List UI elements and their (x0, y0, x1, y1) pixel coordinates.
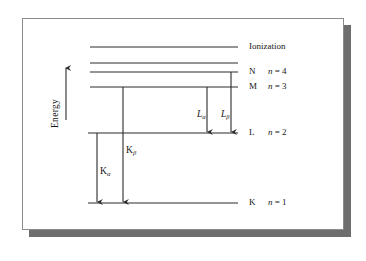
transition-subscript-k-alpha: α (107, 170, 110, 177)
quantum-value-K: = 1 (273, 197, 287, 207)
level-quantum-K: n = 1 (268, 198, 287, 207)
transition-label-k-alpha: Kα (100, 167, 110, 177)
transition-label-k-beta: Kβ (126, 146, 136, 156)
quantum-value-N: = 4 (273, 66, 287, 76)
energy-axis-label: Energy (50, 99, 60, 128)
level-quantum-N: n = 4 (268, 67, 287, 76)
transition-arrows (97, 72, 231, 202)
level-quantum-M: n = 3 (268, 82, 287, 91)
level-quantum-L: n = 2 (268, 128, 287, 137)
level-label-shell-K: K (249, 198, 256, 207)
transition-label-l-alpha: Lα (197, 110, 206, 120)
transition-label-l-beta: Lβ (221, 110, 230, 120)
level-label-ionization: Ionization (249, 42, 286, 51)
energy-level-lines (88, 47, 238, 203)
quantum-value-L: = 2 (273, 127, 287, 137)
diagram-canvas (0, 0, 366, 261)
transition-base-k-alpha: K (100, 166, 107, 176)
transition-subscript-l-alpha: α (202, 113, 205, 120)
transition-base-k-beta: K (126, 145, 133, 155)
quantum-value-M: = 3 (273, 81, 287, 91)
energy-level-diagram-figure: Energy Ionization N n = 4 M n = 3 L n = … (0, 0, 366, 261)
level-label-shell-L: L (249, 128, 255, 137)
transition-subscript-k-beta: β (133, 149, 136, 156)
level-label-shell-N: N (249, 67, 256, 76)
level-label-shell-M: M (249, 82, 257, 91)
transition-subscript-l-beta: β (226, 113, 229, 120)
